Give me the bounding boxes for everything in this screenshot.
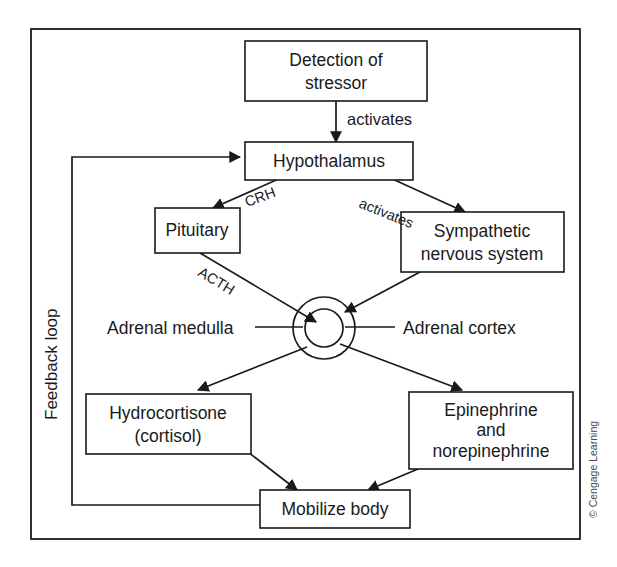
- edge-label-activates-detection: activates: [347, 110, 412, 128]
- node-epinephrine-line2: and: [476, 420, 505, 440]
- stress-response-diagram: Detection of stressor Hypothalamus Pitui…: [0, 0, 617, 567]
- node-hypothalamus[interactable]: Hypothalamus: [245, 142, 413, 180]
- edge-adrenal-to-epinephrine: [340, 344, 462, 390]
- adrenal-gland-outer-circle: [293, 297, 355, 359]
- edge-hypothalamus-to-sympathetic: [388, 177, 465, 212]
- edge-adrenal-to-hydrocortisone: [198, 347, 307, 390]
- node-hydrocortisone-line1: Hydrocortisone: [109, 403, 227, 423]
- adrenal-gland-inner-circle: [305, 309, 343, 347]
- edge-label-activates-sympathetic: activates: [357, 195, 416, 231]
- node-hydrocortisone[interactable]: Hydrocortisone (cortisol): [86, 394, 251, 454]
- node-epinephrine[interactable]: Epinephrine and norepinephrine: [409, 392, 573, 469]
- adrenal-medulla-label: Adrenal medulla: [107, 318, 234, 338]
- node-pituitary[interactable]: Pituitary: [155, 208, 240, 253]
- edge-label-crh: CRH: [243, 184, 278, 210]
- node-mobilize-body[interactable]: Mobilize body: [260, 490, 410, 528]
- node-detection-of-stressor[interactable]: Detection of stressor: [245, 41, 427, 101]
- node-hypothalamus-label: Hypothalamus: [273, 151, 385, 171]
- feedback-loop-label: Feedback loop: [42, 308, 61, 420]
- node-detection-line1: Detection of: [289, 50, 383, 70]
- node-pituitary-label: Pituitary: [165, 220, 228, 240]
- node-epinephrine-line1: Epinephrine: [444, 400, 537, 420]
- node-detection-line2: stressor: [305, 73, 367, 93]
- node-hydrocortisone-line2: (cortisol): [134, 426, 201, 446]
- figure-canvas: Detection of stressor Hypothalamus Pitui…: [0, 0, 617, 567]
- node-sympathetic-nervous-system[interactable]: Sympathetic nervous system: [401, 212, 564, 272]
- node-sympathetic-line2: nervous system: [421, 244, 544, 264]
- node-mobilize-label: Mobilize body: [282, 499, 389, 519]
- edge-hydrocortisone-to-mobilize: [248, 452, 297, 490]
- copyright-credit: © Cengage Learning: [587, 421, 599, 518]
- node-sympathetic-line1: Sympathetic: [434, 221, 531, 241]
- node-epinephrine-line3: norepinephrine: [433, 441, 550, 461]
- adrenal-cortex-label: Adrenal cortex: [403, 318, 516, 338]
- edge-label-acth: ACTH: [195, 264, 237, 298]
- edge-sympathetic-to-adrenal: [345, 272, 420, 312]
